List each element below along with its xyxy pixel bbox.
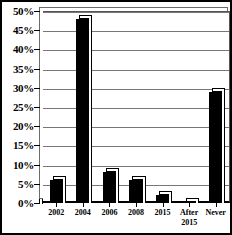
y-axis-tick-label: 25%	[13, 101, 34, 113]
bar-slot	[129, 11, 142, 203]
bar[interactable]	[103, 172, 116, 203]
chart-container: 0%5%10%15%20%25%30%35%40%45%50% 20022004…	[0, 0, 232, 235]
y-axis-tick-label: 20%	[13, 120, 34, 132]
y-axis-tick-label: 40%	[13, 43, 34, 55]
y-axis-tick	[34, 184, 40, 185]
x-axis-tick-label: After 2015	[176, 208, 203, 227]
x-axis-tick-label: 2006	[96, 208, 123, 218]
y-axis-tick	[34, 203, 40, 204]
bar-slot	[209, 11, 222, 203]
x-axis-tick-label: 2002	[43, 208, 70, 218]
bar-side-face	[143, 177, 146, 203]
y-axis-tick-label: 15%	[13, 139, 34, 151]
x-axis-tick-label: 2004	[70, 208, 97, 218]
bar[interactable]	[129, 180, 142, 203]
y-axis-tick-label: 10%	[13, 159, 34, 171]
y-axis-tick	[34, 49, 40, 50]
bar-slot	[103, 11, 116, 203]
x-axis-tick	[109, 203, 110, 207]
y-axis-tick-label: 30%	[13, 82, 34, 94]
y-axis-labels: 0%5%10%15%20%25%30%35%40%45%50%	[2, 2, 36, 202]
y-axis-tick-label: 5%	[18, 178, 34, 190]
bar-side-face	[169, 192, 172, 203]
x-axis-tick-label: 2008	[123, 208, 150, 218]
x-axis-labels: 20022004200620082015After 2015Never	[43, 208, 230, 235]
x-axis-tick	[136, 203, 137, 207]
y-axis-tick-label: 45%	[13, 24, 34, 36]
bar[interactable]	[76, 19, 89, 203]
y-axis-tick	[34, 88, 40, 89]
y-axis-tick	[34, 126, 40, 127]
x-axis-tick	[189, 203, 190, 207]
bar-side-face	[63, 177, 66, 203]
bar-slot	[156, 11, 169, 203]
x-axis-tick-label: Never	[202, 208, 229, 218]
bar-group	[43, 11, 229, 203]
bar[interactable]	[156, 195, 169, 203]
x-axis-tick	[83, 203, 84, 207]
bar-slot	[50, 11, 63, 203]
bar-side-face	[222, 89, 225, 203]
x-axis-tick	[216, 203, 217, 207]
x-axis-tick	[163, 203, 164, 207]
bar-slot	[76, 11, 89, 203]
bar-side-face	[116, 169, 119, 203]
x-axis-tick	[56, 203, 57, 207]
y-axis-tick	[34, 69, 40, 70]
y-axis-tick	[34, 165, 40, 166]
y-axis-tick	[34, 145, 40, 146]
bar-side-face	[89, 16, 92, 203]
y-axis-tick-label: 35%	[13, 63, 34, 75]
y-axis-tick	[34, 11, 40, 12]
y-axis-tick-label: 0%	[18, 197, 34, 209]
y-axis-tick-label: 50%	[13, 5, 34, 17]
x-axis-tick-label: 2015	[149, 208, 176, 218]
bar-slot	[183, 11, 196, 203]
y-axis-tick	[34, 107, 40, 108]
bar[interactable]	[50, 180, 63, 203]
y-axis-tick	[34, 30, 40, 31]
bar[interactable]	[209, 92, 222, 203]
